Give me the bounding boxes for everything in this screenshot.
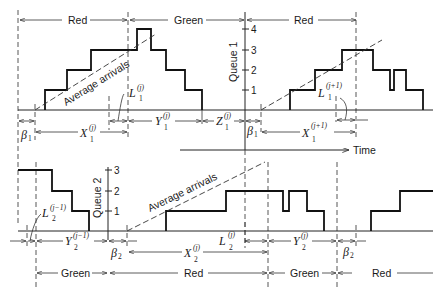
svg-text:X: X xyxy=(183,246,192,260)
svg-text:L: L xyxy=(317,86,325,100)
tick-label: 1 xyxy=(114,206,120,217)
queue2-average-arrivals-label: Average arrivals xyxy=(146,170,219,214)
svg-text:2: 2 xyxy=(74,243,78,252)
svg-text:1: 1 xyxy=(312,135,316,144)
tick-label: 1 xyxy=(251,85,257,96)
phase-green-label: Green xyxy=(61,267,90,279)
time-axis-label: Time xyxy=(353,144,376,156)
svg-text:1: 1 xyxy=(139,94,143,103)
svg-text:X: X xyxy=(301,126,310,140)
tick-label: 3 xyxy=(251,45,257,56)
Z1j-label: Z (j) 1 xyxy=(216,111,232,132)
queue2-length-curve-next xyxy=(371,191,433,231)
queue1-average-arrivals-line xyxy=(35,34,156,110)
svg-text:(j+1): (j+1) xyxy=(311,121,327,130)
svg-text:1: 1 xyxy=(90,135,94,144)
leader-line xyxy=(30,214,41,241)
queue1-cycle-row: X (j) 1 X (j+1) 1 xyxy=(36,121,355,144)
svg-text:β: β xyxy=(20,128,27,142)
leader-line xyxy=(118,94,124,121)
svg-text:Y: Y xyxy=(293,234,301,248)
phase-red-label: Red xyxy=(294,14,313,26)
svg-text:(j): (j) xyxy=(301,231,309,240)
svg-text:L: L xyxy=(41,206,49,220)
Y2j-label: Y (j) 2 xyxy=(293,231,309,252)
L2jm1-label: L (j−1) 2 xyxy=(41,203,66,223)
svg-text:β: β xyxy=(246,124,253,138)
svg-text:Y: Y xyxy=(155,114,163,128)
svg-text:(j−1): (j−1) xyxy=(50,203,66,212)
queue1-axis-label: Queue 1 xyxy=(227,42,239,82)
svg-text:(j): (j) xyxy=(224,111,232,120)
phase-green-label: Green xyxy=(290,267,319,279)
svg-text:2: 2 xyxy=(52,214,56,223)
svg-text:(j+1): (j+1) xyxy=(326,81,342,90)
signal-queue-diagram: Red Green Red 1 2 3 4 Queue 1 xyxy=(0,0,441,292)
svg-text:(j): (j) xyxy=(228,230,236,239)
X1j1-label: X (j+1) 1 xyxy=(301,121,327,144)
svg-text:β: β xyxy=(110,246,117,260)
tick-label: 2 xyxy=(251,65,257,76)
svg-text:(j−1): (j−1) xyxy=(73,231,89,240)
queue1-phase-bar: Red Green Red xyxy=(20,14,356,26)
X2j-label: X (j) 2 xyxy=(183,243,201,264)
L1j-label: L (j) 1 xyxy=(128,83,145,103)
beta2-right-label: β 2 xyxy=(342,245,354,260)
queue2-average-arrivals-line xyxy=(127,162,265,231)
beta1-right-label: β 1 xyxy=(246,124,258,139)
svg-text:1: 1 xyxy=(28,134,32,143)
svg-text:1: 1 xyxy=(164,123,168,132)
svg-text:1: 1 xyxy=(254,130,258,139)
svg-text:2: 2 xyxy=(194,255,198,264)
queue2-axis-label: Queue 2 xyxy=(91,178,103,218)
beta1-left-label: β 1 xyxy=(20,128,32,143)
Y2jm1-label: Y (j−1) 2 xyxy=(65,231,89,252)
queue1-length-curve-next xyxy=(290,50,423,110)
phase-red-label: Red xyxy=(372,267,391,279)
svg-text:2: 2 xyxy=(229,243,233,252)
phase-red-label: Red xyxy=(184,267,203,279)
svg-text:(j): (j) xyxy=(137,83,145,92)
queue2-phase-bar: Green Red Green Red xyxy=(37,267,433,279)
svg-text:β: β xyxy=(342,245,349,259)
svg-text:L: L xyxy=(128,86,136,100)
tick-label: 2 xyxy=(114,186,120,197)
svg-text:(j): (j) xyxy=(193,243,201,252)
X1j-label: X (j) 1 xyxy=(79,123,97,144)
svg-text:(j): (j) xyxy=(163,111,171,120)
time-axis: Time xyxy=(180,144,376,156)
svg-text:X: X xyxy=(79,126,88,140)
Y1j-label: Y (j) 1 xyxy=(155,111,171,132)
L2j-label: L (j) 2 xyxy=(218,230,236,252)
L1j1-label: L (j+1) 1 xyxy=(317,81,342,102)
svg-text:2: 2 xyxy=(118,252,122,261)
svg-text:2: 2 xyxy=(302,243,306,252)
svg-text:(j): (j) xyxy=(89,123,97,132)
beta2-left-label: β 2 xyxy=(110,246,122,261)
phase-red-label: Red xyxy=(68,14,87,26)
queue2-axis: 1 2 3 Queue 2 xyxy=(91,165,120,240)
svg-text:1: 1 xyxy=(328,93,332,102)
svg-text:1: 1 xyxy=(225,123,229,132)
svg-text:2: 2 xyxy=(350,251,354,260)
tick-label: 4 xyxy=(251,24,257,35)
tick-label: 3 xyxy=(114,165,120,176)
svg-text:Y: Y xyxy=(65,234,73,248)
queue1-average-arrivals-label: Average arrivals xyxy=(61,57,132,107)
queue2-cycle-row: X (j) 2 xyxy=(129,243,267,264)
svg-text:Z: Z xyxy=(216,114,223,128)
phase-green-label: Green xyxy=(174,14,203,26)
queue2-panel: 1 2 3 Queue 2 Average arrivals L (j−1) xyxy=(10,150,433,290)
svg-text:L: L xyxy=(218,234,226,248)
leader-line xyxy=(340,98,347,120)
